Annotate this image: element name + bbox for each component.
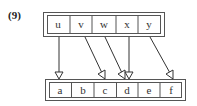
top-cell-v: v (78, 18, 84, 30)
arrow-y-to-f (150, 37, 170, 73)
arrowhead-icon (55, 72, 63, 79)
arrowhead-icon (125, 72, 133, 79)
arrow-v-to-c (85, 37, 102, 73)
bottom-cell-a: a (58, 84, 63, 96)
bottom-cell-b: b (80, 84, 86, 96)
bottom-cell-e: e (147, 84, 152, 96)
bottom-cell-c: c (103, 84, 108, 96)
arrows (55, 37, 173, 79)
top-cell-w: w (100, 18, 108, 30)
top-cell-y: y (146, 18, 152, 30)
bottom-cell-f: f (169, 84, 173, 96)
mapping-diagram: u v w x y a b c d e f (0, 0, 197, 106)
arrow-w-to-d (105, 37, 122, 73)
top-cell-x: x (124, 18, 130, 30)
bottom-cell-d: d (124, 84, 130, 96)
bottom-array: a b c d e f (46, 80, 186, 101)
top-array: u v w x y (44, 13, 165, 37)
top-cell-u: u (55, 18, 61, 30)
